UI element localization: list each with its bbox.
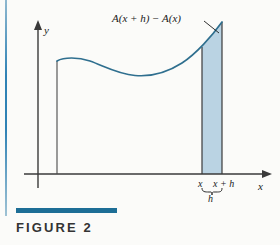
function-curve: [57, 22, 222, 76]
figure-caption-text: FIGURE 2: [16, 220, 117, 235]
h-brace-label: h: [208, 194, 213, 204]
y-axis-arrowhead: [34, 20, 42, 30]
caption-rule: [16, 208, 117, 213]
y-axis-label: y: [44, 25, 49, 36]
x-axis-arrowhead: [262, 170, 272, 178]
annotation-leader-line: [204, 21, 219, 33]
x-axis-label: x: [258, 181, 263, 192]
figure-page: A(x + h) − A(x) y x x x + h h FIGURE 2: [0, 0, 280, 245]
shaded-increment-region: [202, 22, 222, 174]
figure-graphic: A(x + h) − A(x) y x x x + h h: [0, 0, 280, 205]
figure-caption-block: FIGURE 2: [16, 208, 117, 235]
x-plus-h-tick-label: x + h: [213, 179, 234, 189]
x-tick-label: x: [198, 179, 202, 189]
area-difference-label: A(x + h) − A(x): [112, 13, 181, 24]
graph-svg: [0, 0, 280, 205]
